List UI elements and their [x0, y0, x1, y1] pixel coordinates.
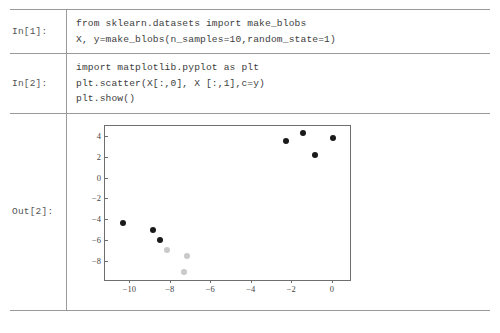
cell-prompt-label: In[2]:	[12, 78, 47, 89]
cell-prompt-label: In[1]:	[12, 26, 47, 37]
notebook-table: In[1]: from sklearn.datasets import make…	[10, 9, 490, 311]
scatter-point	[157, 237, 163, 243]
cell-output: −10−8−6−4−20420−2−4−6−8	[66, 114, 490, 310]
y-axis-tick	[105, 261, 108, 262]
cell-prompt-label: Out[2]:	[12, 206, 53, 217]
scatter-point	[330, 135, 336, 141]
y-axis-tick-label: 4	[97, 131, 101, 141]
y-axis-tick	[105, 157, 108, 158]
x-axis-tick	[210, 280, 211, 283]
y-axis-tick-label: −6	[92, 235, 101, 245]
scatter-point	[184, 253, 190, 259]
y-axis-tick-label: −2	[92, 193, 101, 203]
scatter-plot-figure: −10−8−6−4−20420−2−4−6−8	[76, 117, 376, 307]
y-axis-tick	[105, 136, 108, 137]
scatter-point	[150, 227, 156, 233]
y-axis-tick-label: −8	[92, 256, 101, 266]
x-axis-tick	[129, 280, 130, 283]
x-axis-tick-label: −4	[246, 284, 255, 294]
scatter-point	[312, 152, 318, 158]
y-axis-tick	[105, 178, 108, 179]
code-line: plt.show()	[76, 91, 490, 107]
x-axis-tick	[291, 280, 292, 283]
x-axis-tick	[251, 280, 252, 283]
cell-gutter: In[1]:	[10, 10, 66, 53]
y-axis-tick-label: 2	[97, 152, 101, 162]
code-line: from sklearn.datasets import make_blobs	[76, 16, 490, 32]
scatter-point	[300, 130, 306, 136]
scatter-point	[283, 138, 289, 144]
notebook-cell-out-2: Out[2]: −10−8−6−4−20420−2−4−6−8	[10, 114, 490, 310]
y-axis-tick	[105, 219, 108, 220]
x-axis-tick-label: −6	[206, 284, 215, 294]
x-axis-tick	[170, 280, 171, 283]
x-axis-tick-label: 0	[330, 284, 334, 294]
plot-axes: −10−8−6−4−20420−2−4−6−8	[104, 125, 351, 281]
x-axis-tick-label: −2	[287, 284, 296, 294]
cell-gutter: Out[2]:	[10, 114, 66, 310]
y-axis-tick-label: −4	[92, 214, 101, 224]
code-line: X, y=make_blobs(n_samples=10,random_stat…	[76, 32, 490, 48]
scatter-point	[181, 269, 187, 275]
notebook-cell-in-2[interactable]: In[2]: import matplotlib.pyplot as plt p…	[10, 54, 490, 114]
scatter-point	[164, 247, 170, 253]
code-line: plt.scatter(X[:,0], X [:,1],c=y)	[76, 76, 490, 92]
y-axis-tick	[105, 198, 108, 199]
x-axis-tick	[332, 280, 333, 283]
scatter-point	[120, 220, 126, 226]
cell-source[interactable]: import matplotlib.pyplot as plt plt.scat…	[66, 54, 490, 113]
code-line: import matplotlib.pyplot as plt	[76, 60, 490, 76]
x-axis-tick-label: −8	[165, 284, 174, 294]
y-axis-tick-label: 0	[97, 173, 101, 183]
x-axis-tick-label: −10	[123, 284, 136, 294]
y-axis-tick	[105, 240, 108, 241]
cell-gutter: In[2]:	[10, 54, 66, 113]
notebook-cell-in-1[interactable]: In[1]: from sklearn.datasets import make…	[10, 10, 490, 54]
cell-source[interactable]: from sklearn.datasets import make_blobs …	[66, 10, 490, 53]
